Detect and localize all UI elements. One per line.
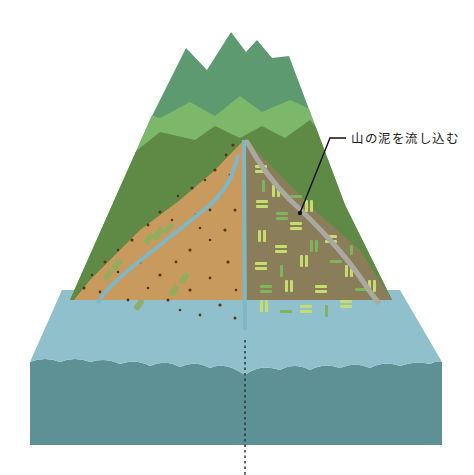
- leader-dot: [298, 211, 302, 215]
- mountain-cross-section-diagram: [0, 0, 474, 475]
- sea-depth-block: [30, 359, 442, 445]
- river-main: [244, 140, 245, 330]
- annotation-label: 山の泥を流し込む: [351, 128, 459, 147]
